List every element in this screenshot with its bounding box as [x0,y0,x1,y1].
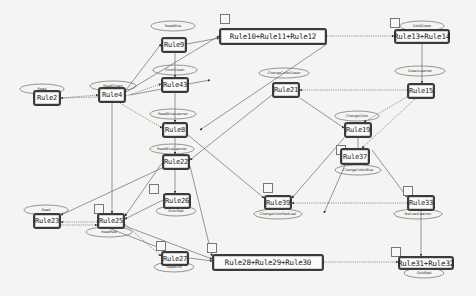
state-label: ReadBlueLearner [157,147,187,151]
state-label: ChangeColor [346,114,369,118]
rule-node-label: Rule10+Rule11+Rule12 [230,32,316,41]
rule-node-rule31_32[interactable]: Rule31+Rule32 [398,256,454,270]
transition-edge [126,44,161,90]
state-label: ChangeColorBlue [343,168,373,172]
self-loop-square-icon [220,14,230,24]
rule-node-label: Rule9 [164,41,184,49]
transition-edge [189,258,212,261]
transition-edge [111,229,160,248]
rule-node-rule21[interactable]: Rule21 [272,82,300,98]
self-loop-square-icon [156,241,166,251]
self-loop-square-icon [263,183,273,193]
rule-node-rule9[interactable]: Rule9 [161,37,187,53]
transition-edge [190,95,272,160]
state-label: ReadBlueLearner [158,112,188,116]
rule-node-label: Rule15 [409,87,433,95]
rule-node-rule28_29_30[interactable]: Rule28+Rule29+Rule30 [212,254,324,271]
transition-edge [61,97,98,98]
rule-node-rule13_14[interactable]: Rule13+Rule14 [394,29,450,44]
transition-edge [372,150,407,197]
transition-edge [187,38,219,44]
rule-node-rule39[interactable]: Rule39 [264,195,292,210]
rule-node-rule25[interactable]: Rule25 [97,213,125,229]
rule-node-label: Rule33 [409,199,433,207]
state-label: ErrorRed [168,209,183,213]
rule-node-label: Rule39 [266,199,290,207]
self-loop-square-icon [149,184,159,194]
transition-edge [188,135,264,198]
rule-node-rule37[interactable]: Rule37 [340,148,370,165]
rule-node-label: Rule22 [164,158,188,166]
rule-node-label: Rule25 [99,217,123,225]
rule-node-rule19[interactable]: Rule19 [344,122,372,138]
state-label: ChangeColorGreen [267,71,300,75]
state-label: ReadBlue [165,24,182,28]
state-label: Read [42,208,51,212]
rule-node-rule43[interactable]: Rule43 [161,77,189,93]
state-label: ReadRed [101,230,116,234]
self-loop-square-icon [207,243,217,253]
rule-node-rule22[interactable]: Rule22 [162,154,190,170]
transition-edge [200,44,327,130]
rule-node-label: Rule4 [102,91,122,99]
transition-edge [125,224,161,256]
transition-edge [120,103,162,128]
rule-node-rule15[interactable]: Rule15 [407,83,435,99]
state-diagram: ReadReadGreenReadBlueGoldGreenErrorGreen… [0,0,476,296]
rule-node-label: Rule43 [163,81,187,89]
rule-node-rule23[interactable]: Rule23 [33,213,61,229]
rule-node-label: Rule21 [274,86,298,94]
rule-node-rule27[interactable]: Rule27 [161,251,189,266]
rule-node-label: Rule37 [343,153,367,161]
rule-node-label: Rule31+Rule32 [398,259,454,268]
state-label: ChangeColorRedLast [260,212,296,216]
rule-node-label: Rule26 [165,197,189,205]
rule-node-label: Rule27 [163,255,187,263]
state-label: GreenLearner [408,69,432,73]
rule-node-label: Rule13+Rule14 [394,32,450,41]
rule-node-rule2[interactable]: Rule2 [33,90,61,106]
rule-node-rule4[interactable]: Rule4 [98,87,126,103]
rule-node-label: Rule23 [35,217,59,225]
rule-node-label: Rule8 [165,126,185,134]
transition-edge [300,98,344,128]
transition-edge [364,97,407,122]
state-label: NotLastLearner [405,212,432,216]
rule-node-rule33[interactable]: Rule33 [407,195,435,211]
transition-edge [324,165,345,213]
rule-node-rule26[interactable]: Rule26 [163,193,191,209]
rule-node-rule8[interactable]: Rule8 [162,122,188,138]
rule-node-label: Rule2 [37,94,57,102]
rule-node-label: Rule19 [346,126,370,134]
rule-node-label: Rule28+Rule29+Rule30 [225,258,311,267]
state-label: GoldRed [417,271,432,275]
state-label: ErrorGreen [165,68,184,72]
rule-node-rule10_11_12[interactable]: Rule10+Rule11+Rule12 [219,28,327,45]
state-ellipses [20,21,445,278]
self-loop-square-icon [390,18,400,28]
state-label: GoldGreen [413,24,432,28]
